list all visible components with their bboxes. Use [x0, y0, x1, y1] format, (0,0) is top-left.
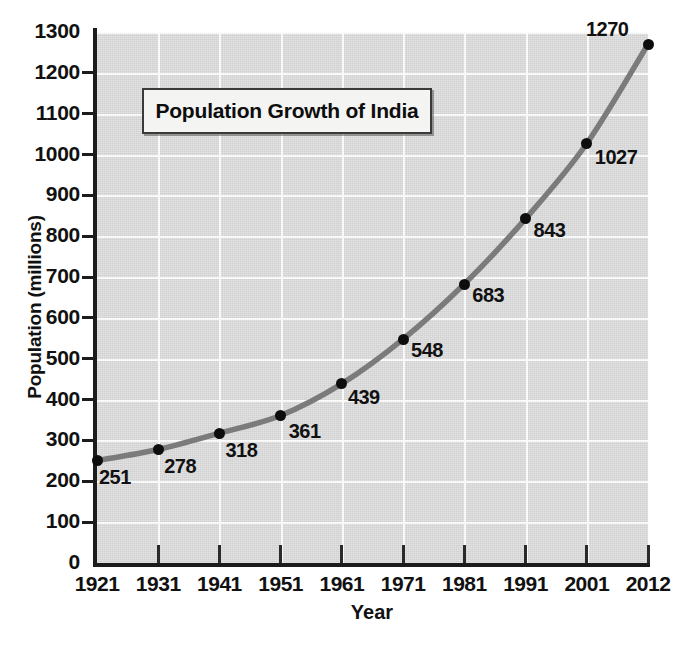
data-point-value-label: 278: [164, 455, 196, 478]
data-point-value-label: 318: [225, 439, 257, 462]
y-axis-tick: [82, 71, 97, 74]
y-axis-tick-label: 100: [2, 509, 80, 533]
data-point-marker: [214, 428, 225, 439]
population-growth-chart: 0100200300400500600700800900100011001200…: [0, 0, 684, 645]
data-point-marker: [153, 444, 164, 455]
gridline-horizontal: [97, 155, 648, 157]
y-axis-tick: [82, 194, 97, 197]
data-point-value-label: 1270: [586, 18, 629, 41]
x-axis-line: [93, 563, 650, 567]
x-axis-tick-label: 1941: [184, 572, 254, 596]
y-axis-tick-label: 1200: [2, 60, 80, 84]
x-axis-title: Year: [297, 601, 447, 624]
y-axis-line: [93, 28, 97, 567]
y-axis-tick: [82, 112, 97, 115]
y-axis-tick: [82, 521, 97, 524]
gridline-horizontal: [97, 440, 648, 442]
y-axis-tick: [82, 235, 97, 238]
y-axis-tick: [82, 316, 97, 319]
y-axis-tick: [82, 398, 97, 401]
gridline-horizontal: [97, 522, 648, 524]
data-point-value-label: 843: [534, 219, 566, 242]
gridline-vertical: [464, 32, 466, 563]
gridline-vertical: [648, 32, 650, 563]
gridline-vertical: [526, 32, 528, 563]
gridline-horizontal: [97, 318, 648, 320]
x-axis-tick: [402, 545, 405, 563]
gridline-horizontal: [97, 73, 648, 75]
y-axis-tick-label: 0: [2, 550, 80, 574]
x-axis-tick-label: 1951: [246, 572, 316, 596]
data-point-value-label: 439: [348, 386, 380, 409]
data-point-value-label: 251: [99, 466, 131, 489]
gridline-horizontal: [97, 32, 648, 34]
x-axis-tick: [218, 545, 221, 563]
gridline-horizontal: [97, 481, 648, 483]
x-axis-tick: [463, 545, 466, 563]
x-axis-tick-label: 1931: [123, 572, 193, 596]
y-axis-tick-label: 1100: [2, 101, 80, 125]
data-point-value-label: 548: [411, 339, 443, 362]
gridline-horizontal: [97, 359, 648, 361]
x-axis-tick: [279, 545, 282, 563]
gridline-vertical: [587, 32, 589, 563]
x-axis-tick: [585, 545, 588, 563]
chart-title: Population Growth of India: [155, 99, 418, 123]
gridline-horizontal: [97, 195, 648, 197]
y-axis-tick-label: 200: [2, 468, 80, 492]
gridline-horizontal: [97, 277, 648, 279]
y-axis-tick: [82, 357, 97, 360]
data-point-marker: [643, 39, 654, 50]
y-axis-title: Population (millions): [24, 177, 46, 437]
x-axis-tick: [157, 545, 160, 563]
data-point-marker: [398, 334, 409, 345]
x-axis-tick-label: 1961: [307, 572, 377, 596]
x-axis-tick: [524, 545, 527, 563]
x-axis-tick-label: 1971: [368, 572, 438, 596]
data-point-marker: [92, 455, 103, 466]
x-axis-tick: [340, 545, 343, 563]
x-axis-tick: [647, 545, 650, 563]
y-axis-tick-label: 1000: [2, 142, 80, 166]
data-point-value-label: 683: [472, 284, 504, 307]
y-axis-tick: [82, 480, 97, 483]
y-axis-tick: [82, 153, 97, 156]
y-axis-tick: [82, 276, 97, 279]
x-axis-tick-label: 1991: [491, 572, 561, 596]
data-point-marker: [459, 279, 470, 290]
data-point-value-label: 1027: [595, 146, 638, 169]
x-axis-tick-label: 1921: [62, 572, 132, 596]
x-axis-tick-label: 2012: [613, 572, 683, 596]
x-axis-tick-label: 1981: [429, 572, 499, 596]
x-axis-tick-label: 2001: [552, 572, 622, 596]
y-axis-tick-label: 1300: [2, 19, 80, 43]
y-axis-tick: [82, 439, 97, 442]
chart-title-box: Population Growth of India: [142, 88, 432, 134]
data-point-value-label: 361: [289, 420, 321, 443]
